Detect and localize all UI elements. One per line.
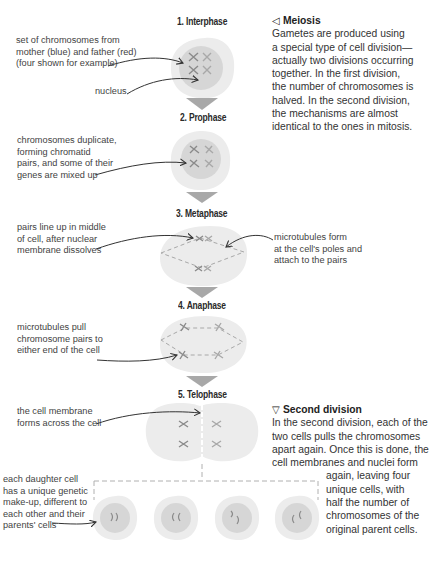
down-arrow-icon: [186, 98, 218, 110]
second-division-panel: ▽ Second division In the second division…: [272, 403, 432, 536]
triangle-left-icon: ◁: [272, 15, 280, 26]
annotation-prophase: chromosomes duplicate, forming chromatid…: [17, 135, 117, 181]
daughter-cell: [215, 496, 259, 540]
anaphase-cell: [160, 316, 247, 373]
interphase-cell: [171, 38, 234, 98]
annotation-metaphase-right: microtubules form at the cell's poles an…: [274, 232, 362, 267]
annotation-nucleus: nucleus: [95, 86, 127, 98]
phase-title-prophase: 2. Prophase: [180, 112, 226, 123]
phase-title-anaphase: 4. Anaphase: [178, 300, 226, 311]
annotation-daughter-cells: each daughter cell has a unique genetic …: [3, 474, 88, 532]
annotation-anaphase: microtubules pull chromosome pairs to ei…: [17, 322, 103, 357]
down-arrow-icon: [186, 376, 218, 387]
phase-title-telophase: 5. Telophase: [178, 389, 227, 400]
down-arrow-icon: [186, 287, 218, 298]
second-division-indented: again, leaving four unique cells, with h…: [272, 469, 432, 535]
annotation-metaphase-left: pairs line up in middle of cell, after n…: [17, 222, 106, 257]
second-division-heading: ▽ Second division: [272, 403, 432, 416]
daughter-cell: [93, 496, 137, 540]
phase-title-metaphase: 3. Metaphase: [176, 208, 227, 219]
annotation-chromosomes: set of chromosomes from mother (blue) an…: [16, 35, 137, 70]
down-arrow-icon: [186, 192, 218, 203]
meiosis-heading: ◁ Meiosis: [272, 14, 417, 27]
phase-title-interphase: 1. Interphase: [177, 16, 227, 27]
annotation-telophase: the cell membrane forms across the cell: [17, 406, 101, 429]
meiosis-panel: ◁ Meiosis Gametes are produced using a s…: [272, 14, 417, 134]
daughter-cell: [154, 496, 198, 540]
prophase-cell: [171, 131, 231, 190]
triangle-down-icon: ▽: [272, 404, 280, 415]
